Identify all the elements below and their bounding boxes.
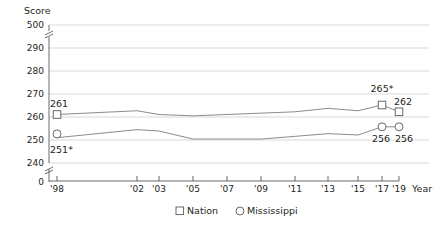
xtick-label-2003: '03 — [152, 184, 166, 194]
legend: Nation Mississippi — [176, 205, 298, 216]
series-mississippi-line — [57, 127, 399, 139]
marker-nation-2019 — [395, 108, 403, 116]
line-chart: 500 290 280 270 260 250 240 0 Score '98 — [0, 0, 439, 227]
xtick-label-2017: '17 — [375, 184, 389, 194]
value-label-mississippi-2017: 256 — [372, 133, 390, 144]
legend-marker-nation-icon — [176, 207, 184, 215]
ytick-label-0: 0 — [38, 177, 44, 187]
legend-label-nation: Nation — [187, 205, 218, 216]
chart-container: 500 290 280 270 260 250 240 0 Score '98 — [0, 0, 439, 227]
ytick-label-270: 270 — [27, 89, 44, 99]
x-axis — [49, 176, 399, 181]
xtick-label-2019: '19 — [392, 184, 406, 194]
value-label-nation-1998: 261 — [50, 98, 68, 109]
x-tick-labels: '98 '02 '03 '05 '07 '09 '11 '13 '15 '17 … — [50, 184, 406, 194]
series-nation — [53, 101, 403, 118]
legend-marker-mississippi-icon — [236, 207, 244, 215]
xtick-label-2007: '07 — [220, 184, 234, 194]
y-axis-title: Score — [24, 5, 51, 16]
xtick-label-2005: '05 — [186, 184, 200, 194]
y-tick-labels: 500 290 280 270 260 250 240 0 — [27, 20, 44, 187]
xtick-label-1998: '98 — [50, 184, 64, 194]
xtick-label-2015: '15 — [351, 184, 365, 194]
xtick-label-2002: '02 — [130, 184, 144, 194]
marker-mississippi-2019 — [395, 123, 403, 131]
y-axis-break-upper-icon — [45, 31, 53, 38]
marker-nation-2017 — [378, 101, 386, 109]
value-label-nation-2017: 265* — [371, 83, 394, 94]
value-label-mississippi-2019: 256 — [395, 133, 413, 144]
value-label-mississippi-1998: 251* — [50, 144, 73, 155]
series-mississippi — [53, 123, 403, 139]
ytick-label-500: 500 — [27, 20, 44, 30]
ytick-label-260: 260 — [27, 112, 44, 122]
xtick-label-2013: '13 — [321, 184, 335, 194]
ytick-label-280: 280 — [27, 66, 44, 76]
ytick-label-250: 250 — [27, 135, 44, 145]
marker-nation-1998 — [53, 111, 61, 119]
series-nation-line — [57, 105, 399, 116]
marker-mississippi-2017 — [378, 123, 386, 131]
ytick-label-290: 290 — [27, 43, 44, 53]
marker-mississippi-1998 — [53, 130, 61, 138]
legend-label-mississippi: Mississippi — [247, 205, 298, 216]
xtick-label-2011: '11 — [288, 184, 302, 194]
value-label-nation-2019: 262 — [394, 96, 412, 107]
x-axis-title: Year — [411, 183, 432, 194]
ytick-label-240: 240 — [27, 158, 44, 168]
xtick-label-2009: '09 — [254, 184, 268, 194]
